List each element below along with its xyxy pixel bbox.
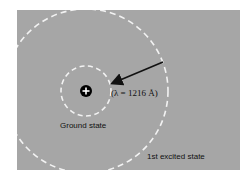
ground-state-label: Ground state (60, 121, 107, 130)
bohr-diagram: (λ = 1216 Å) Ground state 1st excited st… (0, 0, 251, 179)
excited-state-label: 1st excited state (147, 152, 205, 161)
wavelength-label: (λ = 1216 Å) (111, 88, 158, 98)
nucleus-icon (80, 85, 92, 97)
